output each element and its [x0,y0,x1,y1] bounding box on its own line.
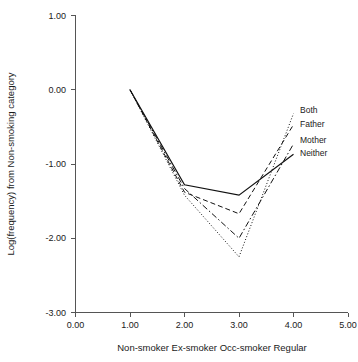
legend-label-neither: Neither [300,148,328,158]
x-axis-title: Non-smoker Ex-smoker Occ-smoker Regular [117,342,307,353]
y-tick-label: 1.00 [48,11,66,21]
legend-label-both: Both [300,105,318,115]
legend-label-mother: Mother [300,135,327,145]
x-tick-label: 3.00 [230,320,248,330]
x-tick-label: 0.00 [67,320,85,330]
x-tick-label: 4.00 [285,320,303,330]
y-tick-label: -3.00 [45,308,66,318]
chart-figure: 1.00 0.00 -1.00 -2.00 -3.00 0.00 1.00 2.… [0,0,358,362]
y-tick-label: -2.00 [45,233,66,243]
y-tick-label: -1.00 [45,159,66,169]
x-tick-label: 1.00 [121,320,139,330]
line-chart-canvas: 1.00 0.00 -1.00 -2.00 -3.00 0.00 1.00 2.… [0,0,358,362]
y-tick-label: 0.00 [48,85,66,95]
x-tick-label: 2.00 [176,320,194,330]
y-axis-title: Log(frequency) from Non-smoking category [5,72,16,255]
legend-label-father: Father [300,119,325,129]
x-tick-label: 5.00 [339,320,357,330]
